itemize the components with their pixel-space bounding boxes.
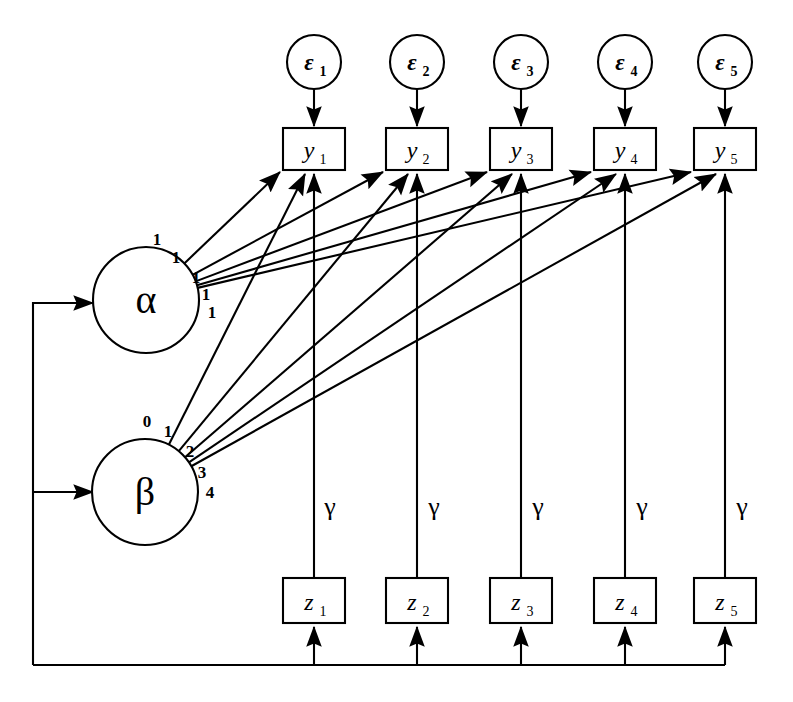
covariate-z3: [490, 578, 552, 623]
latent-factor-beta: [92, 439, 198, 545]
residual-e1: [287, 35, 341, 89]
covariate-z2: [386, 578, 448, 623]
sem-diagram-canvas: ε1ε2ε3ε4ε5y1y2y3y4y5z1z2z3z4z5γγγγγαβ111…: [0, 0, 793, 702]
latent-factor-alpha: [93, 247, 199, 353]
covariate-z5: [694, 578, 756, 623]
residual-e3: [494, 35, 548, 89]
indicator-y5: [694, 128, 756, 170]
covariate-z4: [594, 578, 656, 623]
covariate-z1: [283, 578, 345, 623]
indicator-y2: [386, 128, 448, 170]
indicator-y3: [490, 128, 552, 170]
semantic-overlay: [0, 0, 793, 702]
residual-e2: [390, 35, 444, 89]
residual-e5: [698, 35, 752, 89]
residual-e4: [598, 35, 652, 89]
indicator-y4: [594, 128, 656, 170]
indicator-y1: [283, 128, 345, 170]
